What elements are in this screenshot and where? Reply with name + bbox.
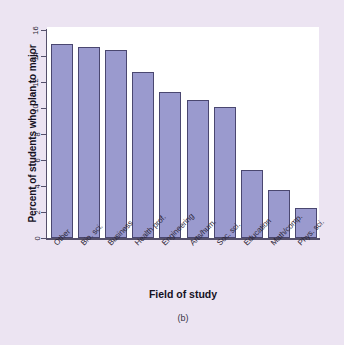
bar	[105, 50, 127, 239]
y-tick-mark	[41, 134, 46, 135]
y-tick-mark	[41, 108, 46, 109]
y-tick-mark	[41, 30, 46, 31]
y-tick-mark	[41, 160, 46, 161]
y-axis-title: Percent of students who plan to major	[27, 29, 38, 239]
bar-series	[47, 27, 319, 238]
x-tick-label: Phys. sci.	[296, 241, 344, 255]
figure-caption: (b)	[47, 313, 319, 323]
y-tick-mark	[41, 82, 46, 83]
figure-panel: 0246810121416 Percent of students who pl…	[0, 0, 344, 345]
y-tick-mark	[41, 212, 46, 213]
bar	[214, 107, 236, 238]
y-tick-mark	[41, 238, 46, 239]
bar	[78, 47, 100, 238]
bar	[132, 72, 154, 238]
y-tick-mark	[41, 186, 46, 187]
x-axis-title: Field of study	[47, 288, 319, 300]
bar	[51, 44, 73, 238]
y-tick-mark	[41, 56, 46, 57]
